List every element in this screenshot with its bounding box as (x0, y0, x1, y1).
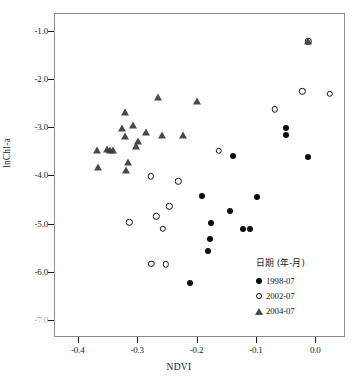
legend-title: 日期 (年-月) (256, 259, 340, 268)
legend-marker-filled-circle-icon (252, 278, 266, 284)
y-axis-tick (48, 31, 54, 32)
y-axis-title: lnChl-a (2, 123, 12, 183)
y-axis-tick-label: -6.0 (8, 267, 48, 277)
y-axis-tick-label: -2.0 (8, 74, 48, 84)
y-axis-tick-label: -5.0 (8, 219, 48, 229)
x-axis-tick (137, 337, 138, 343)
legend-entry: 1998-07 (252, 275, 340, 288)
legend-entries: 1998-072002-072004-07 (252, 275, 340, 318)
x-axis-tick (78, 337, 79, 343)
legend-entry-label: 2002-07 (266, 292, 295, 301)
legend-entry-label: 2004-07 (266, 307, 295, 316)
x-axis-tick (256, 337, 257, 343)
y-axis-tick (48, 224, 54, 225)
legend-marker-triangle-icon (252, 308, 266, 315)
legend-entry: 2004-07 (252, 305, 340, 318)
y-axis-tick (48, 79, 54, 80)
x-axis-tick-label: 0.0 (293, 345, 337, 355)
x-axis-tick-label: -0.2 (175, 345, 219, 355)
x-axis-tick-label: -0.4 (56, 345, 100, 355)
x-axis-tick (197, 337, 198, 343)
y-axis-tick-label: -1.0 (8, 26, 48, 36)
scatter-plot-figure: -1.0-2.0-3.0-4.0-5.0-6.0-7.0 -0.4-0.3-0.… (0, 0, 358, 381)
y-axis-tick (48, 127, 54, 128)
legend-marker-open-circle-icon (252, 293, 266, 299)
x-axis-tick-label: -0.3 (115, 345, 159, 355)
y-axis-tick-label: -4.0 (8, 170, 48, 180)
y-axis-tick-label: -3.0 (8, 122, 48, 132)
x-axis-tick-label: -0.1 (234, 345, 278, 355)
y-axis-tick (48, 175, 54, 176)
x-axis-tick (315, 337, 316, 343)
legend: 日期 (年-月) 1998-072002-072004-07 (252, 259, 340, 320)
y-axis-tick (48, 320, 54, 321)
legend-entry-label: 1998-07 (266, 277, 295, 286)
x-axis-title: NDVI (0, 362, 358, 372)
legend-entry: 2002-07 (252, 290, 340, 303)
y-axis-tick-label: -7.0 (8, 315, 48, 325)
y-axis-tick (48, 272, 54, 273)
